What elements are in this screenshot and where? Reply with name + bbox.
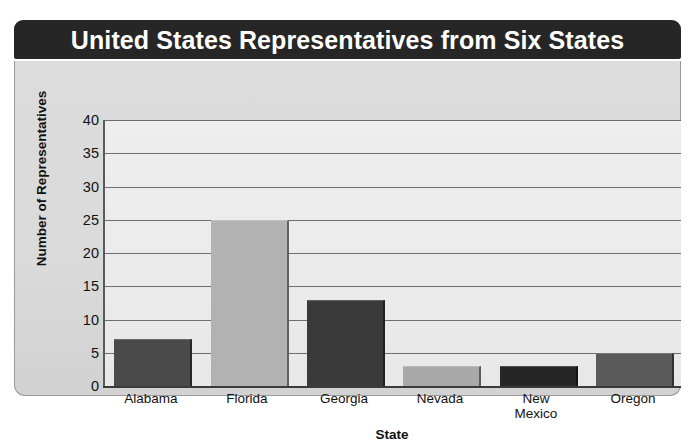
x-axis-tick-labels: AlabamaFloridaGeorgiaNevadaNew MexicoOre… xyxy=(103,391,681,427)
bar xyxy=(114,339,192,386)
bar xyxy=(596,353,674,386)
gridline xyxy=(105,120,681,121)
bar xyxy=(500,366,578,386)
y-tick-label: 15 xyxy=(65,278,99,294)
y-tick-label: 30 xyxy=(65,179,99,195)
bar xyxy=(307,300,385,386)
gridline xyxy=(105,253,681,254)
x-tick-label: Florida xyxy=(199,391,295,406)
y-tick-label: 5 xyxy=(65,345,99,361)
y-axis-tick-labels: 0510152025303540 xyxy=(55,120,99,386)
y-tick-label: 25 xyxy=(65,212,99,228)
y-tick-label: 0 xyxy=(65,378,99,394)
plot-area xyxy=(103,120,681,386)
gridline xyxy=(105,220,681,221)
chart-panel: Number of Representatives 05101520253035… xyxy=(14,61,681,396)
y-tick-label: 10 xyxy=(65,312,99,328)
chart-figure: United States Representatives from Six S… xyxy=(14,20,681,396)
gridline xyxy=(105,286,681,287)
chart-title-bar: United States Representatives from Six S… xyxy=(14,20,681,59)
chart-title: United States Representatives from Six S… xyxy=(14,26,681,55)
y-axis-label: Number of Representatives xyxy=(34,79,49,279)
y-tick-label: 35 xyxy=(65,145,99,161)
x-tick-label: Nevada xyxy=(392,391,488,406)
bar xyxy=(211,220,289,386)
gridline xyxy=(105,187,681,188)
x-tick-label: Alabama xyxy=(103,391,199,406)
bar xyxy=(403,366,481,386)
gridline xyxy=(105,153,681,154)
x-tick-label: Georgia xyxy=(296,391,392,406)
x-tick-label: New Mexico xyxy=(488,391,584,421)
x-axis-label: State xyxy=(103,427,681,442)
y-tick-label: 40 xyxy=(65,112,99,128)
gridline xyxy=(105,320,681,321)
y-tick-label: 20 xyxy=(65,245,99,261)
x-tick-label: Oregon xyxy=(585,391,681,406)
x-axis-line xyxy=(103,386,681,388)
